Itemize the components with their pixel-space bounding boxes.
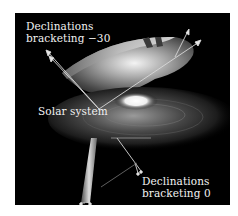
upper-wedge: [62, 37, 194, 95]
upper-wedge-label-line1: Declinations: [26, 20, 110, 32]
solar-system-label: Solar system: [38, 105, 108, 117]
upper-wedge-label-line2: bracketing −30: [26, 32, 110, 44]
lower-wedge-label: Declinations bracketing 0: [142, 175, 211, 199]
galaxy-disk: [48, 87, 230, 151]
lower-wedge-label-line2: bracketing 0: [142, 187, 211, 199]
upper-wedge-label: Declinations bracketing −30: [26, 20, 110, 44]
lower-wedge-label-line1: Declinations: [142, 175, 211, 187]
galaxy-survey-diagram: Declinations bracketing −30 Solar system…: [15, 13, 230, 205]
